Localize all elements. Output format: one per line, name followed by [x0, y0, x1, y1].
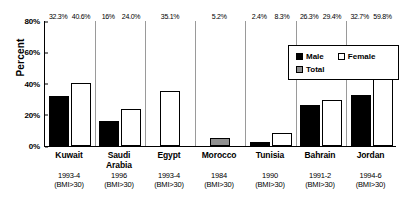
x-criteria: (BMI>30) [345, 180, 396, 189]
x-year: 1990 [245, 171, 295, 180]
legend-item-female: Female [338, 52, 376, 61]
x-criteria: (BMI>30) [44, 180, 94, 189]
plot-area: 80% 60% 40% 20% 0% 32.3% 40.6% [44, 21, 396, 147]
legend-label-female: Female [348, 52, 376, 61]
bar-value-label: 35.1% [161, 13, 179, 20]
bar-group-kuwait: 32.3% 40.6% [45, 21, 95, 146]
bar-value-label: 5.2% [212, 13, 227, 20]
bar-morocco-total: 5.2% [210, 21, 230, 146]
chart-legend: Male Female Total [288, 45, 399, 80]
bar-value-label: 8.3% [275, 13, 290, 20]
legend-label-total: Total [306, 65, 325, 74]
bar-group-saudi-arabia: 16% 24.0% [95, 21, 145, 146]
bar-value-label: 32.3% [49, 13, 67, 20]
bar-group-jordan: 32.7% 59.8% [346, 21, 397, 146]
x-country-name: Kuwait [44, 150, 94, 160]
x-country-name: Saudi [94, 150, 144, 160]
bar-value-label: 29.4% [323, 13, 341, 20]
x-criteria: (BMI>30) [194, 180, 244, 189]
obesity-prevalence-bar-chart: Percent 80% 60% 40% 20% 0% 32.3% 40.6% [0, 0, 401, 223]
bar-saudi-arabia-female: 24.0% [121, 21, 141, 146]
bar-value-label: 32.7% [351, 13, 369, 20]
x-axis-labels: Kuwait 1993-4 (BMI>30) Saudi Arabia 1996… [44, 150, 396, 220]
x-label-bahrain: Bahrain 1991-2 (BMI>30) [295, 150, 345, 189]
x-label-morocco: Morocco 1984 (BMI>30) [194, 150, 244, 189]
bar-value-label: 16% [102, 13, 115, 20]
bar-kuwait-male: 32.3% [49, 21, 69, 146]
legend-label-male: Male [306, 52, 324, 61]
x-label-tunisia: Tunisia 1990 (BMI>30) [245, 150, 295, 189]
x-year: 1994-6 [345, 171, 396, 180]
bar-value-label: 2.4% [252, 13, 267, 20]
legend-item-male: Male [296, 52, 324, 61]
x-label-jordan: Jordan 1994-6 (BMI>30) [345, 150, 396, 189]
x-year: 1993-4 [144, 171, 194, 180]
bar-group-morocco: 5.2% [195, 21, 245, 146]
bar-bahrain-female: 29.4% [322, 21, 342, 146]
x-country-name: Morocco [194, 150, 244, 160]
x-year: 1991-2 [295, 171, 345, 180]
bar-tunisia-female: 8.3% [272, 21, 292, 146]
bar-value-label: 59.8% [373, 13, 391, 20]
bar-group-tunisia: 2.4% 8.3% [246, 21, 296, 146]
legend-swatch-total-icon [296, 66, 303, 73]
x-label-egypt: Egypt 1993-4 (BMI>30) [144, 150, 194, 189]
x-criteria: (BMI>30) [295, 180, 345, 189]
bar-tunisia-male: 2.4% [250, 21, 270, 146]
x-country-name: Jordan [345, 150, 396, 160]
bar-group-bahrain: 26.3% 29.4% [296, 21, 346, 146]
bar-value-label: 24.0% [122, 13, 140, 20]
bar-jordan-male: 32.7% [351, 21, 371, 146]
bar-value-label: 26.3% [300, 13, 318, 20]
bar-jordan-female: 59.8% [373, 21, 393, 146]
x-criteria: (BMI>30) [144, 180, 194, 189]
y-tick-60: 60% [25, 48, 45, 57]
bar-bahrain-male: 26.3% [300, 21, 320, 146]
bar-group-egypt: 35.1% [145, 21, 195, 146]
bar-value-label: 40.6% [72, 13, 90, 20]
y-tick-20: 20% [25, 110, 45, 119]
x-criteria: (BMI>30) [245, 180, 295, 189]
x-country-name: Egypt [144, 150, 194, 160]
bar-egypt-female: 35.1% [160, 21, 180, 146]
x-country-name: Bahrain [295, 150, 345, 160]
legend-item-total: Total [296, 65, 325, 74]
x-country-name-line2: Arabia [94, 160, 144, 170]
x-year: 1993-4 [44, 171, 94, 180]
x-criteria: (BMI>30) [94, 180, 144, 189]
y-tick-80: 80% [25, 17, 45, 26]
bar-kuwait-female: 40.6% [71, 21, 91, 146]
legend-swatch-male-icon [296, 53, 303, 60]
x-label-kuwait: Kuwait 1993-4 (BMI>30) [44, 150, 94, 189]
legend-swatch-female-icon [338, 53, 345, 60]
x-year: 1996 [94, 171, 144, 180]
x-country-name: Tunisia [245, 150, 295, 160]
y-tick-0: 0% [29, 142, 45, 151]
x-label-saudi-arabia: Saudi Arabia 1996 (BMI>30) [94, 150, 144, 189]
y-tick-40: 40% [25, 79, 45, 88]
x-year: 1984 [194, 171, 244, 180]
bar-saudi-arabia-male: 16% [99, 21, 119, 146]
